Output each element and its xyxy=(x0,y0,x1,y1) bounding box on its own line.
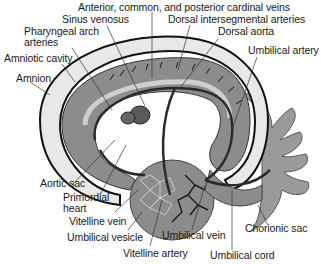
label-heart: heart xyxy=(63,203,86,214)
label-sinus-venosus: Sinus venosus xyxy=(62,14,129,25)
label-umbilical-artery: Umbilical artery xyxy=(248,45,319,56)
label-vitelline-vein: Vitelline vein xyxy=(69,216,126,227)
label-amnion: Amnion xyxy=(16,73,51,84)
label-umbilical-vein: Umbilical vein xyxy=(162,230,225,241)
label-vitelline-artery: Vitelline artery xyxy=(123,248,188,259)
label-chorionic-sac: Chorionic sac xyxy=(245,223,307,234)
label-umbilical-cord: Umbilical cord xyxy=(210,250,275,261)
embryo-circulation-diagram: Anterior, common, and posterior cardinal… xyxy=(0,0,321,264)
label-cardinal-veins: Anterior, common, and posterior cardinal… xyxy=(78,2,290,13)
label-dorsal-intersegmental-arteries: Dorsal intersegmental arteries xyxy=(168,14,305,25)
umbilical-vesicle-shape xyxy=(130,160,214,240)
label-pharyngeal-arteries: arteries xyxy=(24,37,58,48)
label-aortic-sac: Aortic sac xyxy=(40,178,85,189)
label-dorsal-aorta: Dorsal aorta xyxy=(218,26,274,37)
label-amniotic-cavity: Amniotic cavity xyxy=(4,53,73,64)
label-umbilical-vesicle: Umbilical vesicle xyxy=(67,232,143,243)
